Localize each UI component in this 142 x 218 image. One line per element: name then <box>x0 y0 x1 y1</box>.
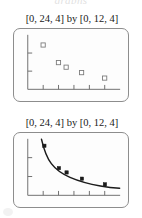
data-point-marker <box>43 144 46 147</box>
calculator-screen-scatter <box>13 28 129 102</box>
calculator-screen-curve <box>13 132 129 208</box>
curve-plot-svg <box>14 133 128 207</box>
cropped-caption-remnant: graphs <box>0 0 142 4</box>
scan-artifact-speckle <box>3 208 13 216</box>
data-point-marker <box>41 43 45 47</box>
data-point-marker <box>64 65 68 69</box>
scatter-data-markers <box>41 43 107 80</box>
data-point-marker <box>57 166 60 169</box>
figure-panel-scatter: [0, 24, 4] by [0, 12, 4] <box>0 12 142 102</box>
x-axis-ticks-curve <box>43 191 105 195</box>
data-point-marker <box>65 171 68 174</box>
y-axis-ticks-scatter <box>28 53 32 71</box>
window-label-curve: [0, 24, 4] by [0, 12, 4] <box>0 116 142 130</box>
figure-panel-curve: [0, 24, 4] by [0, 12, 4] <box>0 116 142 208</box>
data-point-marker <box>56 61 60 65</box>
data-point-marker <box>80 177 83 180</box>
fitted-curve <box>42 139 120 188</box>
y-axis-ticks-curve <box>28 158 32 177</box>
data-point-marker <box>79 71 83 75</box>
window-label-scatter: [0, 24, 4] by [0, 12, 4] <box>0 12 142 26</box>
data-point-marker <box>103 76 107 80</box>
x-axis-ticks-scatter <box>43 85 105 89</box>
scatter-plot-svg <box>14 29 128 101</box>
data-point-marker <box>103 183 106 186</box>
